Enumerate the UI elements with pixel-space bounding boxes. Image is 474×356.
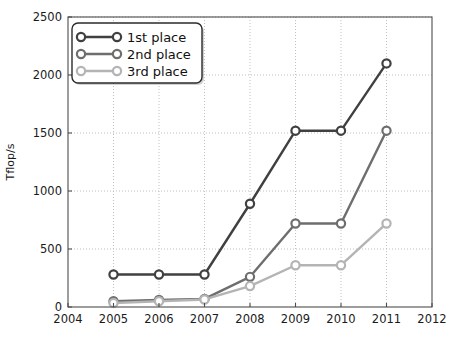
- x-tick-label: 2009: [281, 312, 310, 326]
- line-chart: 05001000150020002500 2004200520062007200…: [0, 0, 474, 356]
- y-tick-label: 1500: [33, 126, 62, 140]
- x-tick-label: 2008: [235, 312, 264, 326]
- data-point: [291, 219, 299, 227]
- data-point: [382, 59, 390, 67]
- data-point: [200, 270, 208, 278]
- legend: 1st place2nd place3rd place: [72, 23, 204, 85]
- x-tick-label: 2006: [144, 312, 173, 326]
- x-tick-label: 2005: [99, 312, 128, 326]
- y-tick-label: 2500: [33, 10, 62, 24]
- legend-label: 3rd place: [127, 64, 188, 79]
- data-point: [246, 282, 254, 290]
- legend-marker: [113, 50, 121, 58]
- x-tick-label: 2012: [417, 312, 446, 326]
- x-tick-label: 2004: [53, 312, 82, 326]
- chart-figure: 05001000150020002500 2004200520062007200…: [0, 0, 474, 356]
- data-point: [155, 270, 163, 278]
- legend-label: 2nd place: [127, 47, 191, 62]
- data-point: [246, 200, 254, 208]
- y-tick-label: 1000: [33, 184, 62, 198]
- legend-marker: [113, 67, 121, 75]
- data-point: [246, 273, 254, 281]
- x-tick-label: 2007: [190, 312, 219, 326]
- y-axis-title: Tflop/s: [4, 143, 17, 181]
- data-point: [337, 127, 345, 135]
- data-point: [291, 127, 299, 135]
- data-point: [337, 261, 345, 269]
- legend-marker: [113, 33, 121, 41]
- data-point: [382, 127, 390, 135]
- legend-label: 1st place: [127, 30, 186, 45]
- legend-marker: [77, 33, 85, 41]
- legend-marker: [77, 67, 85, 75]
- data-point: [291, 261, 299, 269]
- y-tick-label: 2000: [33, 68, 62, 82]
- data-point: [382, 219, 390, 227]
- data-point: [337, 219, 345, 227]
- data-point: [200, 295, 208, 303]
- x-tick-label: 2011: [372, 312, 401, 326]
- data-point: [109, 270, 117, 278]
- x-tick-label: 2010: [326, 312, 355, 326]
- y-tick-label: 500: [40, 242, 62, 256]
- legend-marker: [77, 50, 85, 58]
